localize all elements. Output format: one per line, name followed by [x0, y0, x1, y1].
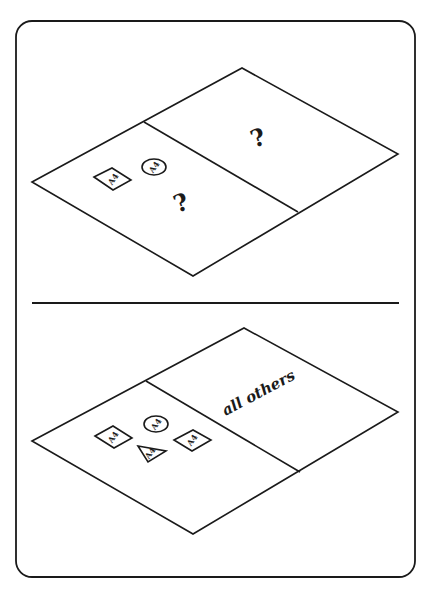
outer-frame	[16, 21, 415, 577]
top-right-question-mark: ?	[246, 121, 269, 153]
bottom-rhombus	[32, 328, 398, 534]
bottom-circle-label: A4	[148, 416, 164, 433]
bottom-diamond-2-label: A4	[184, 432, 200, 449]
top-panel: A4 A4 ? ?	[32, 68, 398, 276]
top-region-divider	[144, 122, 298, 212]
bottom-diamond-shape-2: A4	[174, 430, 211, 451]
top-circle-label: A4	[146, 159, 162, 176]
bottom-circle-shape: A4	[144, 416, 168, 433]
bottom-panel: A4 A4 A4 A4 all others	[32, 328, 398, 534]
diagram-canvas: A4 A4 ? ? A4 A4 A4 A4	[0, 0, 432, 592]
bottom-triangle-shape: A4	[138, 445, 166, 462]
bottom-diamond-shape-1: A4	[95, 426, 132, 448]
top-left-question-mark: ?	[169, 186, 192, 218]
top-circle-shape: A4	[142, 159, 166, 176]
top-rhombus	[32, 68, 398, 276]
top-diamond-label: A4	[105, 171, 121, 188]
all-others-label: all others	[219, 366, 299, 420]
top-diamond-shape: A4	[94, 168, 131, 190]
bottom-region-divider	[146, 381, 300, 472]
